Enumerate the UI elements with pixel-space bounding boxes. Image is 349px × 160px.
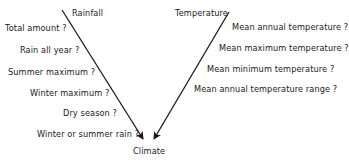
rainfall-question-6: Winter or summer rain ? <box>37 129 139 139</box>
rainfall-question-1: Total amount ? <box>5 23 67 33</box>
temperature-question-2: Mean maximum temperature ? <box>219 43 349 53</box>
climate-label: Climate <box>133 146 165 156</box>
rainfall-question-3: Summer maximum ? <box>8 67 95 77</box>
rainfall-question-5: Dry season ? <box>63 108 117 118</box>
rainfall-question-4: Winter maximum ? <box>30 88 109 98</box>
temperature-title: Temperature <box>175 8 228 18</box>
temperature-question-1: Mean annual temperature ? <box>232 22 348 32</box>
rainfall-title: Rainfall <box>72 8 103 18</box>
temperature-arrow <box>154 12 229 139</box>
temperature-question-4: Mean annual temperature range ? <box>194 84 337 94</box>
rainfall-question-2: Rain all year ? <box>20 45 79 55</box>
temperature-question-3: Mean minimum temperature ? <box>207 64 334 74</box>
